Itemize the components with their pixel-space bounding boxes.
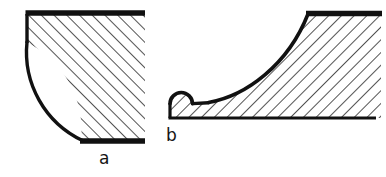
- figure-plate: a b: [0, 0, 386, 177]
- figure-b-flat-run: [193, 103, 209, 104]
- figure-drawing: [0, 0, 386, 177]
- figure-a-hatch-fill: [20, 8, 152, 148]
- figure-b-label: b: [166, 127, 177, 144]
- figure-a-group: [20, 8, 152, 148]
- figure-a-label: a: [99, 150, 109, 167]
- figure-b-group: [164, 8, 386, 124]
